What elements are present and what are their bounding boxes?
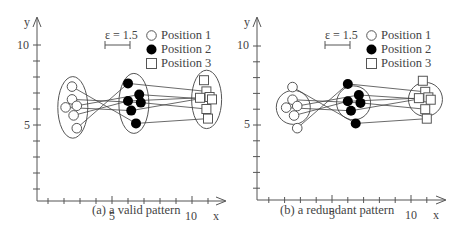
filled-circle-icon bbox=[136, 98, 146, 108]
x-tick-10: 10 bbox=[185, 209, 197, 223]
open-square-icon bbox=[421, 105, 430, 114]
legend-label: Position 1 bbox=[161, 28, 211, 42]
open-circle-icon bbox=[288, 82, 298, 92]
filled-circle-icon bbox=[123, 96, 133, 106]
y-axis-label: y bbox=[24, 15, 30, 29]
open-square-icon bbox=[196, 93, 205, 102]
y-tick-5: 5 bbox=[244, 117, 250, 131]
open-circle-icon bbox=[69, 111, 79, 121]
legend-label: Position 3 bbox=[381, 56, 431, 70]
open-circle-icon bbox=[366, 30, 377, 41]
legend-label: Position 1 bbox=[381, 28, 431, 42]
open-square-icon bbox=[422, 114, 431, 123]
legend-label: Position 2 bbox=[381, 42, 431, 56]
epsilon-label: ε = 1.5 bbox=[325, 28, 358, 43]
open-square-icon bbox=[208, 95, 217, 104]
filled-circle-icon bbox=[366, 44, 377, 55]
legend-item-position-2: Position 2 bbox=[146, 42, 211, 56]
filled-circle-icon bbox=[343, 96, 353, 106]
filled-circle-icon bbox=[131, 118, 141, 128]
x-axis-label: x bbox=[213, 209, 219, 223]
filled-circle-icon bbox=[126, 106, 136, 116]
filled-circle-icon bbox=[123, 78, 133, 88]
legend-item-position-1: Position 1 bbox=[146, 28, 211, 42]
open-circle-icon bbox=[292, 101, 302, 111]
legend-item-position-3: Position 3 bbox=[366, 56, 431, 70]
open-circle-icon bbox=[61, 103, 71, 113]
open-circle-icon bbox=[146, 30, 157, 41]
open-square-icon bbox=[200, 76, 209, 85]
legend-item-position-2: Position 2 bbox=[366, 42, 431, 56]
legend: Position 1 Position 2 Position 3 bbox=[146, 28, 211, 70]
open-circle-icon bbox=[67, 82, 77, 92]
caption: (a) a valid pattern bbox=[92, 203, 181, 218]
open-square-icon bbox=[146, 58, 157, 69]
legend-item-position-1: Position 1 bbox=[366, 28, 431, 42]
filled-circle-icon bbox=[346, 106, 356, 116]
open-square-icon bbox=[366, 58, 377, 69]
open-circle-icon bbox=[289, 111, 299, 121]
panel-redundant-pattern: y 10 5 5 10 x ε = 1.5 Position 1 Positio… bbox=[221, 0, 453, 246]
filled-circle-icon bbox=[343, 79, 353, 89]
open-circle-icon bbox=[72, 101, 82, 111]
open-circle-icon bbox=[72, 123, 82, 133]
epsilon-label: ε = 1.5 bbox=[105, 28, 138, 43]
y-tick-10: 10 bbox=[237, 38, 249, 52]
legend-label: Position 3 bbox=[161, 56, 211, 70]
x-tick-10: 10 bbox=[405, 208, 417, 222]
y-tick-10: 10 bbox=[17, 38, 29, 52]
x-axis-label: x bbox=[433, 208, 439, 222]
y-tick-5: 5 bbox=[24, 118, 30, 132]
filled-circle-icon bbox=[351, 118, 361, 128]
open-square-icon bbox=[202, 105, 211, 114]
open-square-icon bbox=[414, 94, 423, 103]
legend: Position 1 Position 2 Position 3 bbox=[366, 28, 431, 70]
filled-circle-icon bbox=[355, 98, 365, 108]
filled-circle-icon bbox=[146, 44, 157, 55]
legend-item-position-3: Position 3 bbox=[146, 56, 211, 70]
open-square-icon bbox=[418, 76, 427, 85]
open-square-icon bbox=[204, 114, 213, 123]
panel-valid-pattern: y 10 5 5 10 x ε = 1.5 Position 1 Positio… bbox=[0, 0, 232, 246]
open-circle-icon bbox=[292, 123, 302, 133]
y-axis-label: y bbox=[244, 15, 250, 29]
open-square-icon bbox=[426, 95, 435, 104]
legend-label: Position 2 bbox=[161, 42, 211, 56]
caption: (b) a redundant pattern bbox=[280, 203, 394, 218]
open-circle-icon bbox=[281, 103, 291, 113]
